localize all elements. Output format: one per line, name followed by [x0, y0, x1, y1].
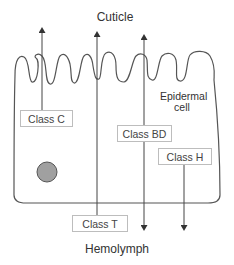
hemolymph-label: Hemolymph [82, 242, 152, 256]
class-bd-box: Class BD [117, 125, 172, 142]
cuticle-label: Cuticle [92, 10, 138, 24]
epidermal-cell-label: Epidermal cell [160, 91, 204, 113]
epidermal-cell-label-line2: cell [160, 102, 204, 113]
class-t-box: Class T [72, 215, 128, 232]
class-h-box: Class H [158, 148, 212, 165]
nucleus [37, 162, 57, 182]
class-c-box: Class C [20, 110, 73, 127]
